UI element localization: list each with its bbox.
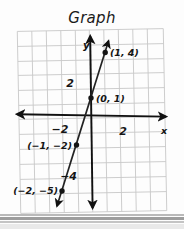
point-label-0-1: (0, 1)	[96, 93, 125, 104]
page-edge-line-1	[0, 214, 184, 216]
data-point-0-1[interactable]	[88, 95, 93, 100]
point-label-neg2-neg5: (−2, −5)	[13, 185, 58, 196]
y-tick-label-2: 2	[66, 77, 74, 90]
x-axis-label: x	[160, 125, 168, 136]
data-point-neg2-neg5[interactable]	[59, 188, 64, 193]
point-label-neg1-neg2: (−1, −2)	[27, 140, 72, 151]
point-label-1-4: (1, 4)	[110, 47, 139, 58]
page-edge-line-4	[0, 224, 184, 229]
y-axis-label: y	[83, 39, 91, 51]
coordinate-plane: y x 2 −4 −2 2 (1, 4) (0, 1) (−1, −2) (−2…	[0, 0, 184, 229]
x-tick-label-neg2: −2	[52, 123, 69, 136]
y-tick-label-neg4: −4	[60, 170, 77, 183]
data-point-1-4[interactable]	[103, 50, 108, 55]
graph-screenshot: Graph	[0, 0, 184, 229]
page-edge-line-2	[0, 217, 184, 220]
page-edge-line-3	[0, 221, 184, 223]
data-point-neg1-neg2[interactable]	[74, 142, 79, 147]
y-axis	[90, 36, 92, 208]
x-tick-label-2: 2	[119, 125, 127, 138]
